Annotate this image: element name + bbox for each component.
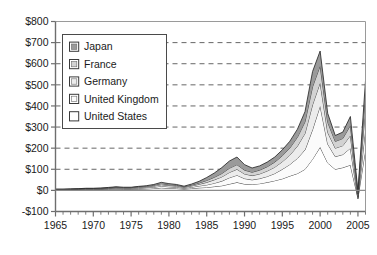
y-tick-label: $600 [25,57,49,69]
y-tick-label: $100 [25,163,49,175]
legend-item-label: Japan [84,40,113,52]
legend-swatch-fill [71,44,76,49]
x-tick-label: 1975 [119,219,143,231]
legend-item-label: United Kingdom [84,93,159,105]
y-tick-label: $700 [25,36,49,48]
x-tick-label: 1965 [44,219,68,231]
x-tick-label: 1995 [271,219,295,231]
y-tick-label: $800 [25,15,49,27]
legend-item-japan[interactable]: Japan [70,40,113,52]
legend-swatch-fill [71,96,76,101]
legend-item-france[interactable]: France [70,58,117,70]
legend-swatch-fill [71,79,76,84]
y-tick-label: $500 [25,79,49,91]
stacked-area-chart: $800$700$600$500$400$300$200$100$0-$1001… [0,0,377,255]
legend-swatch-fill [71,61,76,66]
x-tick-label: 1990 [233,219,257,231]
y-tick-label: $400 [25,100,49,112]
legend-item-label: France [84,58,117,70]
y-tick-label: $300 [25,121,49,133]
legend-swatch-fill [71,114,76,119]
chart-canvas: $800$700$600$500$400$300$200$100$0-$1001… [0,0,377,255]
x-tick-label: 1985 [195,219,219,231]
y-tick-label: $0 [37,184,49,196]
x-tick-label: 2000 [308,219,332,231]
x-tick-label: 1970 [82,219,106,231]
x-tick-label: 1980 [157,219,181,231]
legend-item-label: Germany [84,75,128,87]
legend-item-label: United States [84,110,147,122]
legend-item-germany[interactable]: Germany [70,75,128,87]
y-tick-label: $200 [25,142,49,154]
legend[interactable]: JapanFranceGermanyUnited KingdomUnited S… [63,35,167,129]
x-tick-label: 2005 [346,219,370,231]
y-tick-label: -$100 [22,205,49,217]
